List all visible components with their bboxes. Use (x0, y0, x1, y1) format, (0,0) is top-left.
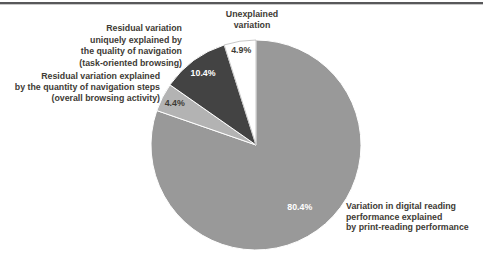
label-line: the quality of navigation (0, 46, 182, 58)
label-line: performance explained (346, 212, 481, 223)
label-line: Residual variation explained (0, 71, 160, 82)
pie-pct-label-1: 4.4% (165, 98, 185, 108)
label-unexplained-variation: Unexplained variation (200, 9, 304, 30)
label-line: uniquely explained by (0, 35, 182, 47)
label-line: by print-reading performance (346, 222, 481, 233)
label-residual-quality-navigation: Residual variation uniquely explained by… (0, 23, 182, 69)
label-line: variation (200, 20, 304, 31)
pie-pct-label-3: 4.9% (231, 45, 251, 55)
pie-pct-label-2: 10.4% (191, 68, 216, 78)
label-line: by the quantity of navigation steps (0, 82, 160, 93)
label-line: Unexplained (200, 9, 304, 20)
label-line: Residual variation (0, 23, 182, 35)
label-line: Variation in digital reading (346, 201, 481, 212)
pie-chart-figure: 80.4%4.4%10.4%4.9% Unexplained variation… (0, 0, 483, 262)
pie-pct-label-0: 80.4% (287, 202, 312, 212)
label-residual-quantity-steps: Residual variation explained by the quan… (0, 71, 160, 105)
label-digital-reading-performance: Variation in digital reading performance… (346, 201, 481, 233)
label-line: (overall browsing activity) (0, 93, 160, 104)
label-line: (task-oriented browsing) (0, 58, 182, 70)
